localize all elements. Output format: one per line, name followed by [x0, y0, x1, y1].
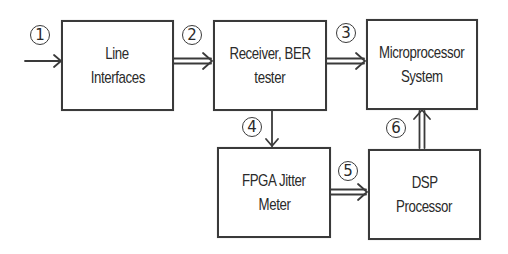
badge-4: 4: [242, 117, 262, 137]
block-microprocessor-line1: Microprocessor: [379, 41, 464, 65]
block-fpga-line1: FPGA Jitter: [242, 169, 306, 193]
arrow-6-dsp-to-microprocessor: [414, 110, 430, 148]
badge-1: 1: [30, 25, 50, 45]
block-line-interfaces-line1: Line: [106, 42, 130, 66]
block-fpga-jitter-meter: FPGA Jitter Meter: [217, 147, 331, 238]
block-dsp-line2: Processor: [396, 195, 452, 219]
block-microprocessor-system: Microprocessor System: [366, 19, 478, 110]
block-dsp-line1: DSP: [411, 171, 437, 195]
block-line-interfaces: Line Interfaces: [61, 20, 174, 111]
arrow-1-input: [25, 55, 61, 67]
badge-3: 3: [336, 23, 356, 43]
block-fpga-line2: Meter: [258, 193, 290, 217]
block-receiver-ber-tester: Receiver, BER tester: [213, 20, 327, 111]
block-diagram: Line Interfaces Receiver, BER tester Mic…: [0, 0, 508, 254]
block-line-interfaces-line2: Interfaces: [90, 66, 144, 90]
block-receiver-line1: Receiver, BER: [229, 42, 310, 66]
arrow-3-receiver-to-microprocessor: [327, 53, 365, 69]
block-receiver-line2: tester: [255, 66, 286, 90]
block-microprocessor-line2: System: [401, 65, 443, 89]
arrow-4-receiver-to-fpga: [266, 111, 278, 146]
block-dsp-processor: DSP Processor: [368, 149, 481, 240]
arrow-2-line-to-receiver: [174, 53, 212, 69]
badge-6: 6: [386, 118, 406, 138]
badge-5: 5: [338, 161, 358, 181]
badge-2: 2: [182, 25, 202, 45]
arrow-5-fpga-to-dsp: [331, 184, 367, 200]
